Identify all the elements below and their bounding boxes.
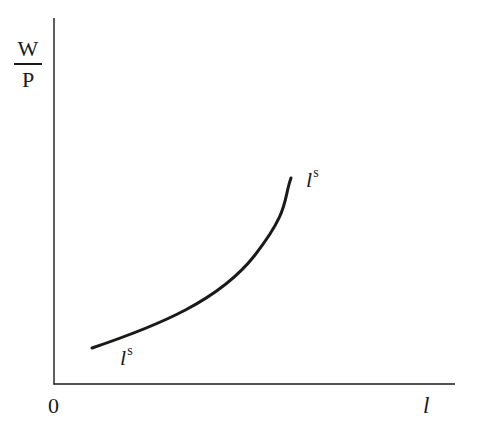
origin-label: 0 <box>48 393 59 419</box>
curve-label-base: l <box>120 345 126 370</box>
y-axis-label-denominator: P <box>10 68 46 92</box>
curve-label-bottom: ls <box>120 345 133 371</box>
labor-supply-curve <box>92 178 291 348</box>
y-axis-label: W P <box>10 37 46 92</box>
y-axis-label-numerator: W <box>10 37 46 61</box>
fraction-bar <box>14 63 42 65</box>
curve-label-base: l <box>306 167 312 192</box>
curve-label-superscript: s <box>127 343 132 358</box>
curve-label-top: ls <box>306 167 319 193</box>
curve-label-superscript: s <box>313 165 318 180</box>
x-axis-label: l <box>423 393 429 419</box>
diagram-canvas <box>0 0 479 437</box>
